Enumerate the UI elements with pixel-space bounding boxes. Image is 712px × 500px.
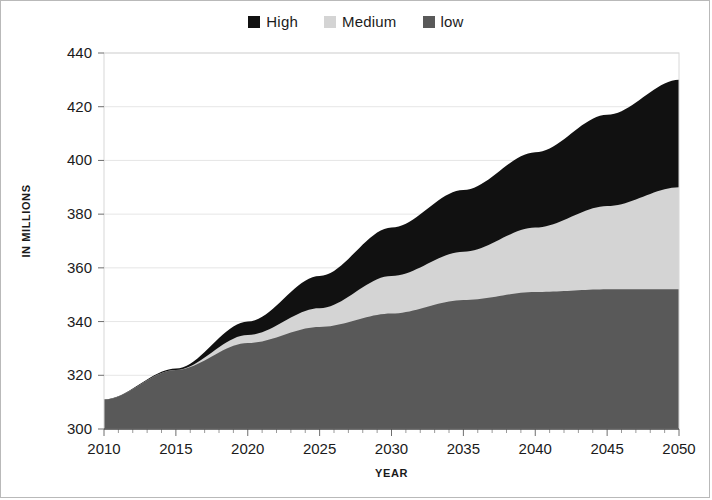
x-tick-label: 2015: [159, 440, 192, 457]
y-tick-label: 340: [67, 313, 92, 330]
x-tick-label: 2035: [447, 440, 480, 457]
chart-svg: 300320340360380400420440 201020152020202…: [1, 1, 711, 499]
y-tick-label: 320: [67, 366, 92, 383]
plot-area: 300320340360380400420440 201020152020202…: [1, 1, 711, 499]
y-tick-label: 300: [67, 420, 92, 437]
y-tick-label: 420: [67, 98, 92, 115]
x-tick-label: 2020: [231, 440, 264, 457]
y-tick-label: 360: [67, 259, 92, 276]
area-series-group: [104, 80, 679, 429]
x-tick-label: 2025: [303, 440, 336, 457]
x-tick-labels: 201020152020202520302035204020452050: [87, 440, 695, 457]
chart-container: High Medium low IN MILLIONS YEAR 3003203…: [0, 0, 710, 498]
y-tick-label: 380: [67, 205, 92, 222]
y-tick-labels: 300320340360380400420440: [67, 44, 92, 437]
y-tick-label: 440: [67, 44, 92, 61]
x-tick-label: 2010: [87, 440, 120, 457]
y-tick-label: 400: [67, 151, 92, 168]
x-tick-label: 2045: [590, 440, 623, 457]
x-tick-label: 2040: [519, 440, 552, 457]
x-tick-label: 2030: [375, 440, 408, 457]
x-tick-label: 2050: [662, 440, 695, 457]
